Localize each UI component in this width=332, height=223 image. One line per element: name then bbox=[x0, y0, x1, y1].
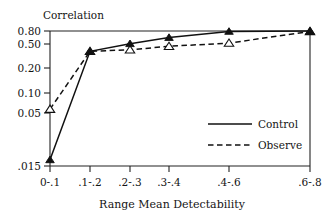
legend-label-observe: Observe bbox=[258, 139, 302, 151]
xtick-label-5: .6-.8 bbox=[298, 176, 322, 188]
data-point-observe bbox=[224, 39, 233, 46]
data-point-observe bbox=[45, 105, 54, 112]
ytick-label-1: 0.50 bbox=[18, 38, 41, 50]
xtick-label-2: .2-.3 bbox=[118, 176, 142, 188]
chart-container: Correlation 0.80 0.50 0.20 0.10 0.05 .01… bbox=[0, 0, 332, 223]
ytick-label-2: 0.20 bbox=[18, 62, 41, 74]
data-point-control bbox=[46, 156, 55, 163]
series-line-observe bbox=[50, 31, 310, 109]
xtick-label-1: .1-.2 bbox=[78, 176, 102, 188]
ytick-label-0: 0.80 bbox=[18, 25, 41, 37]
legend: Control Observe bbox=[208, 118, 302, 151]
ytick-label-5: .015 bbox=[18, 160, 41, 172]
x-axis-title: Range Mean Detectability bbox=[99, 198, 246, 211]
xtick-label-0: 0-.1 bbox=[40, 176, 60, 188]
ytick-label-4: 0.05 bbox=[18, 107, 41, 119]
series-markers-observe bbox=[45, 27, 314, 112]
legend-label-control: Control bbox=[258, 118, 299, 130]
y-axis-title: Correlation bbox=[43, 9, 104, 21]
ytick-label-3: 0.10 bbox=[18, 87, 41, 99]
data-point-observe bbox=[164, 42, 173, 49]
xtick-label-4: .4-.6 bbox=[217, 176, 241, 188]
correlation-line-chart: Correlation 0.80 0.50 0.20 0.10 0.05 .01… bbox=[0, 0, 332, 223]
xtick-label-3: .3-.4 bbox=[157, 176, 181, 188]
